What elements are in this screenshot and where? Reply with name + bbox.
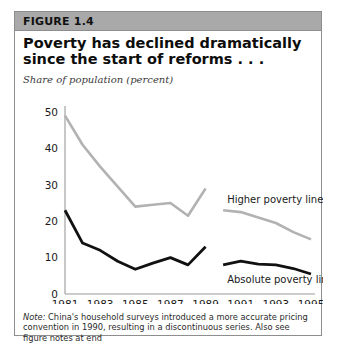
y-tick-label: 50 bbox=[45, 106, 58, 118]
series-annotation-higher-poverty-line: Higher poverty line bbox=[227, 194, 323, 205]
x-tick-label: 1995 bbox=[298, 298, 323, 304]
x-tick-label: 1989 bbox=[192, 298, 219, 304]
y-tick-label: 30 bbox=[45, 179, 58, 191]
figure-number-label: FIGURE 1.4 bbox=[23, 15, 94, 28]
x-tick-label: 1981 bbox=[52, 298, 79, 304]
series-line-higher-poverty-line-seg0 bbox=[65, 116, 206, 216]
figure-note-body: China's household surveys introduced a m… bbox=[23, 312, 308, 343]
y-tick-label: 10 bbox=[45, 251, 58, 263]
figure-header-bar: FIGURE 1.4 bbox=[15, 12, 321, 31]
series-annotation-absolute-poverty-line: Absolute poverty line bbox=[227, 274, 323, 285]
x-tick-label: 1991 bbox=[227, 298, 254, 304]
y-axis-tick-labels: 01020304050 bbox=[45, 106, 58, 300]
figure-container: FIGURE 1.4 Poverty has declined dramatic… bbox=[14, 11, 322, 336]
x-axis-tick-labels: 19811983198519871989199119931995 bbox=[52, 298, 323, 304]
x-tick-label: 1983 bbox=[87, 298, 114, 304]
line-chart: 01020304050 1981198319851987198919911993… bbox=[15, 92, 323, 304]
x-tick-label: 1985 bbox=[122, 298, 149, 304]
x-tick-label: 1987 bbox=[157, 298, 184, 304]
series-line-higher-poverty-line-seg1 bbox=[223, 210, 311, 239]
figure-note: Note: China's household surveys introduc… bbox=[23, 312, 315, 343]
series-line-absolute-poverty-line-seg0 bbox=[65, 210, 206, 269]
series-line-absolute-poverty-line-seg1 bbox=[223, 261, 311, 274]
x-tick-label: 1993 bbox=[262, 298, 289, 304]
chart-units-caption: Share of population (percent) bbox=[23, 74, 173, 85]
figure-title: Poverty has declined dramatically since … bbox=[23, 35, 313, 67]
figure-note-lead: Note: bbox=[23, 312, 45, 322]
y-tick-label: 20 bbox=[45, 215, 58, 227]
y-tick-label: 40 bbox=[45, 142, 58, 154]
chart-plot-area: 01020304050 1981198319851987198919911993… bbox=[15, 92, 323, 304]
